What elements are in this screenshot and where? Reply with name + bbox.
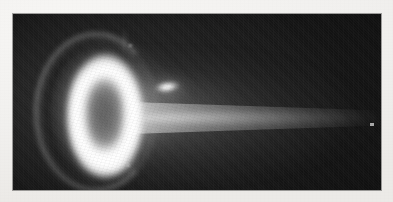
scanned-page <box>0 0 393 202</box>
dust-speck-lower <box>127 164 130 167</box>
discharge-ring-core <box>83 76 127 156</box>
print-streak-artifact <box>123 28 126 54</box>
dust-speck-upper <box>129 44 132 47</box>
photograph-frame <box>13 14 381 190</box>
dust-speck-right-edge <box>370 123 374 126</box>
